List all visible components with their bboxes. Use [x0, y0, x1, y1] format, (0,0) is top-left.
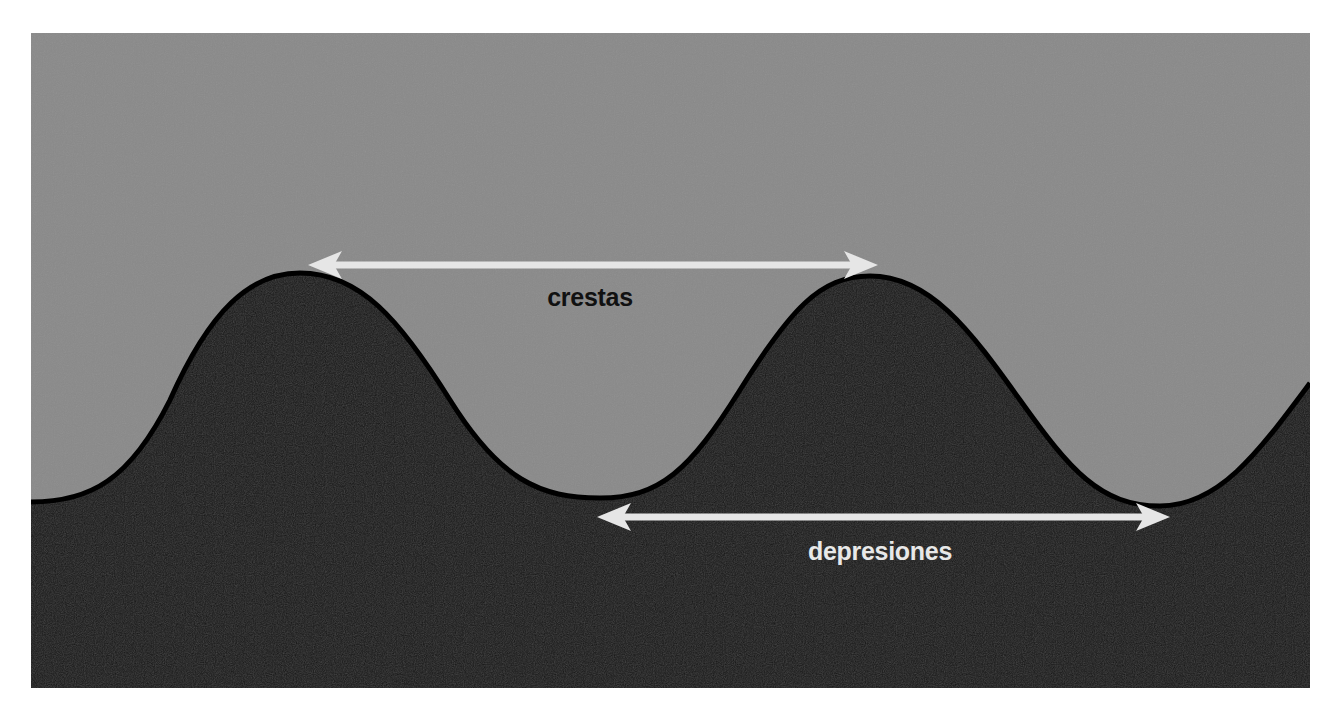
crest-label: crestas [547, 283, 632, 312]
trough-label: depresiones [808, 537, 952, 566]
wave-diagram-canvas [0, 0, 1343, 723]
wave-diagram: crestas depresiones [0, 0, 1343, 723]
